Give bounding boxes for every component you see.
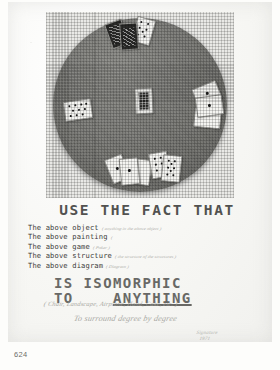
card-pip — [78, 109, 80, 112]
above-item-label: The above diagram — [28, 261, 103, 270]
card-pip — [141, 30, 144, 33]
playing-card-bottom-right-eight — [161, 154, 183, 183]
card-pip — [147, 23, 150, 26]
scanned-page: USE THE FACT THAT The above object ( any… — [0, 0, 280, 370]
card-pip — [170, 163, 172, 166]
card-pip — [155, 169, 157, 172]
card-pip — [84, 108, 86, 111]
card-pip — [167, 159, 169, 162]
list-item: The above object ( anything in the above… — [28, 223, 260, 232]
page-title: USE THE FACT THAT — [20, 202, 260, 218]
card-pip — [74, 104, 76, 107]
above-item-annotation: ( Poker ) — [93, 245, 111, 249]
card-pip — [128, 169, 131, 173]
list-item: The above diagram ( Diagram ) — [28, 261, 260, 270]
card-pip — [72, 110, 74, 113]
signature: Signature 1971 — [195, 330, 218, 341]
card-pip — [70, 114, 72, 117]
above-item-label: The above game — [28, 242, 90, 251]
above-item-label: The above object — [28, 223, 99, 232]
card-face-mark — [123, 27, 136, 46]
card-pip — [80, 103, 82, 106]
typewritten-text-block: USE THE FACT THAT The above object ( any… — [20, 202, 260, 306]
statement-line-is-isomorphic: IS ISOMORPHIC — [54, 276, 260, 291]
signature-date: 1971 — [199, 336, 217, 342]
card-pip — [172, 174, 174, 177]
playing-card-right-middle — [195, 94, 225, 118]
playing-card-center-court — [134, 88, 153, 115]
card-pip — [166, 166, 168, 169]
card-pip — [145, 29, 148, 32]
page-number: 624 — [14, 350, 27, 359]
handwritten-examples-note: ( Chair, Landscape, Airplane, Hand, Cake… — [43, 300, 178, 307]
card-pip — [169, 170, 171, 173]
card-pip — [68, 105, 70, 108]
above-item-label: The above painting — [28, 232, 108, 241]
card-pip — [81, 113, 83, 116]
signature-name: Signature — [196, 330, 218, 335]
photograph-of-card-table — [46, 12, 234, 198]
card-pip — [140, 21, 143, 24]
above-statements-list: The above object ( anything in the above… — [28, 223, 260, 270]
above-item-annotation: ( Diagram ) — [106, 264, 130, 268]
card-pip — [208, 104, 211, 108]
playing-card-bottom-ace-spades — [119, 157, 141, 186]
above-item-annotation: ( the structure of the structures ) — [115, 255, 177, 259]
card-pip — [160, 157, 162, 160]
above-item-annotation: ( — [110, 236, 112, 240]
playing-card-left-ten — [63, 98, 94, 122]
handwritten-motto: To surround degree by degree — [73, 314, 178, 323]
list-item: The above game ( Poker ) — [28, 242, 260, 251]
card-pip — [154, 164, 156, 167]
card-pip — [153, 158, 155, 161]
card-pip — [76, 114, 78, 117]
card-pip — [138, 27, 141, 30]
paper-speck — [30, 42, 32, 43]
card-pip — [143, 35, 146, 38]
list-item: The above painting ( — [28, 232, 260, 241]
card-pip — [166, 173, 168, 176]
card-pip — [85, 103, 87, 106]
card-pip — [174, 160, 176, 163]
card-court-mark — [138, 92, 150, 110]
list-item: The above structure ( the structure of t… — [28, 251, 260, 260]
card-pip — [173, 167, 175, 170]
playing-card-top-center-face — [119, 22, 139, 50]
above-item-label: The above structure — [28, 251, 112, 260]
above-item-annotation: ( anything in the above object ) — [101, 226, 161, 230]
